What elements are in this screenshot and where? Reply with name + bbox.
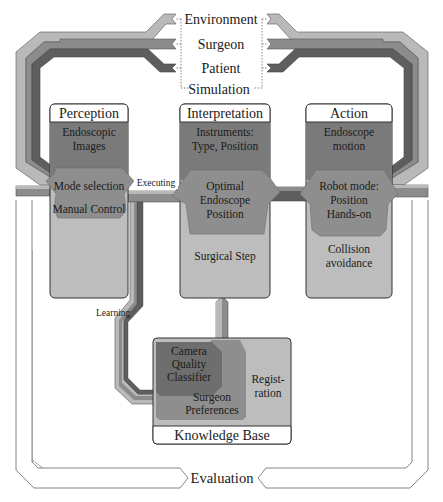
kb-classifier: Classifier (167, 371, 211, 383)
action-hands-on: Hands-on (327, 208, 372, 220)
interpretation-optimal: Optimal (206, 180, 244, 193)
perception-mode-selection: Mode selection (54, 180, 125, 192)
action-collision: Collision (328, 243, 370, 255)
learning-label: Learning (96, 308, 131, 318)
knowledge-base-title: Knowledge Base (174, 428, 269, 443)
action-robot-mode: Robot mode: (319, 180, 379, 192)
source-surgeon: Surgeon (198, 37, 244, 52)
interpretation-title: Interpretation (187, 106, 263, 121)
kb-quality: Quality (172, 358, 207, 371)
kb-preferences: Preferences (185, 404, 239, 416)
action-endoscope-motion-2: motion (333, 140, 366, 152)
interpretation-endoscope: Endoscope (200, 194, 250, 207)
action-avoidance: avoidance (326, 257, 373, 269)
kb-camera: Camera (171, 345, 207, 357)
interpretation-surgical-step: Surgical Step (194, 250, 256, 263)
interpretation-type-position: Type, Position (192, 140, 259, 153)
interpretation-instruments: Instruments: (196, 126, 254, 138)
source-patient: Patient (202, 61, 241, 76)
perception-title: Perception (59, 106, 119, 121)
perception-endoscopic-images-2: Images (72, 140, 106, 153)
interpretation-position: Position (206, 208, 244, 220)
registration-arrow (216, 296, 228, 340)
kb-surgeon: Surgeon (193, 391, 231, 404)
kb-ration: ration (255, 387, 282, 399)
perception-manual-control: Manual Control (52, 203, 125, 215)
action-position: Position (330, 194, 368, 206)
framework-diagram: Environment Surgeon Patient Simulation P… (0, 0, 443, 502)
kb-regist: Regist- (251, 373, 284, 386)
source-connectors (176, 19, 267, 88)
perception-endoscopic-images: Endoscopic (62, 126, 116, 139)
source-environment: Environment (184, 12, 257, 27)
source-simulation: Simulation (188, 82, 249, 97)
action-endoscope-motion: Endoscope (324, 126, 374, 139)
evaluation-label: Evaluation (191, 470, 255, 486)
executing-label: Executing (137, 178, 176, 188)
action-title: Action (330, 106, 368, 121)
